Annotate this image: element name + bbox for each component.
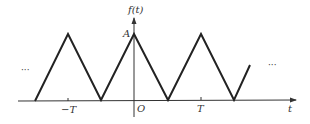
xlabel: t <box>288 103 293 114</box>
left-ellipsis: ··· <box>21 65 30 75</box>
triangular-wave <box>35 34 250 101</box>
ylabel: f(t) <box>127 4 144 15</box>
amplitude-label: A <box>122 28 130 39</box>
tick-label-neg-T: −T <box>61 104 77 115</box>
t-axis <box>18 100 296 101</box>
triangular-wave-diagram: f(t) A O t −T T ··· ··· <box>0 0 310 124</box>
origin-label: O <box>137 103 145 114</box>
right-ellipsis: ··· <box>268 60 277 70</box>
tick-label-T: T <box>197 103 205 114</box>
